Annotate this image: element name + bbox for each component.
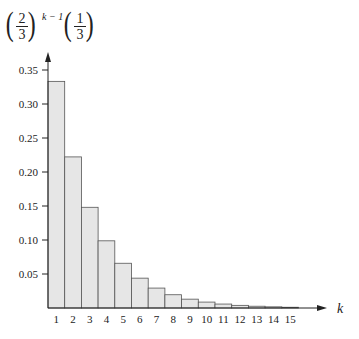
bar-k-2 (65, 157, 82, 308)
bar-k-10 (198, 302, 215, 308)
y-ticks-group: 0.050.100.150.200.250.300.35 (19, 64, 48, 280)
x-tick-label: 6 (137, 313, 143, 325)
y-tick-label: 0.20 (19, 166, 39, 178)
x-tick-label: 11 (218, 313, 229, 325)
y-tick-label: 0.35 (19, 64, 39, 76)
bar-k-7 (148, 288, 165, 308)
x-tick-label: 8 (171, 313, 177, 325)
x-tick-label: 10 (201, 313, 213, 325)
bar-k-3 (81, 207, 98, 308)
x-tick-label: 15 (285, 313, 297, 325)
x-axis-arrow-icon (317, 305, 327, 311)
y-tick-label: 0.30 (19, 98, 39, 110)
x-tick-label: 12 (235, 313, 246, 325)
x-tick-label: 4 (104, 313, 110, 325)
bar-k-11 (215, 304, 232, 308)
bar-k-9 (182, 299, 199, 308)
x-tick-label: 13 (251, 313, 263, 325)
x-tick-labels-group: 123456789101112131415 (54, 313, 297, 325)
x-tick-label: 7 (154, 313, 160, 325)
x-tick-label: 5 (120, 313, 126, 325)
bar-chart: 0.050.100.150.200.250.300.35 12345678910… (0, 0, 359, 339)
x-tick-label: 14 (268, 313, 280, 325)
x-tick-label: 3 (87, 313, 93, 325)
y-tick-label: 0.05 (19, 268, 39, 280)
bar-k-1 (48, 81, 65, 308)
bar-k-4 (98, 241, 115, 308)
bar-k-8 (165, 295, 182, 308)
x-tick-label: 1 (54, 313, 60, 325)
bar-k-6 (132, 278, 149, 308)
bars-group (48, 81, 299, 308)
y-tick-label: 0.25 (19, 132, 39, 144)
x-tick-label: 9 (187, 313, 193, 325)
y-tick-label: 0.10 (19, 234, 39, 246)
y-axis-arrow-icon (45, 52, 51, 62)
x-axis-label: k (337, 301, 344, 316)
y-tick-label: 0.15 (19, 200, 39, 212)
x-tick-label: 2 (70, 313, 76, 325)
bar-k-5 (115, 263, 132, 308)
